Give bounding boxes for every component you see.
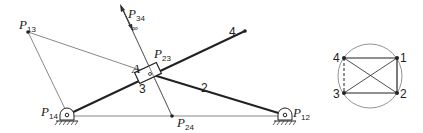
links: [67, 31, 285, 115]
label-infinity: ∞: [132, 24, 138, 33]
line-p13-a: [28, 32, 140, 70]
label-p23: P23: [153, 46, 171, 63]
kinematic-diagram: P13 P34 ∞ P23 A 3 2 4 P14 P24 P12 1 2 3 …: [0, 0, 423, 133]
label-link-3: 3: [139, 82, 146, 96]
point-4: [243, 29, 247, 33]
node-2: 2: [400, 87, 407, 101]
point-p24: [170, 114, 174, 118]
label-a: A: [131, 61, 140, 76]
label-p12: P12: [292, 105, 310, 122]
node-3: 3: [333, 87, 340, 101]
label-link-4: 4: [229, 25, 236, 39]
label-link-2: 2: [201, 81, 208, 95]
circle-diagram: 1 2 3 4: [333, 44, 407, 108]
label-p24: P24: [176, 115, 194, 132]
label-p14: P14: [40, 104, 58, 121]
label-p34: P34: [127, 6, 145, 23]
line-p13-p14: [28, 32, 67, 113]
node-4: 4: [333, 51, 340, 65]
label-p13: P13: [18, 17, 36, 34]
node-1: 1: [400, 51, 407, 65]
link-2: [150, 74, 285, 115]
